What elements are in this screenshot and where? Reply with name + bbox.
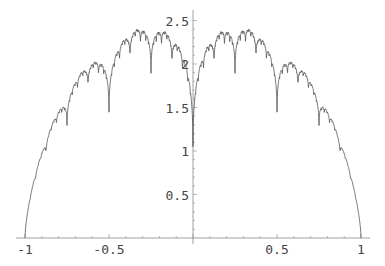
y-tick-label: 1 [181,144,189,159]
x-tick-label: -0.5 [93,242,124,257]
y-tick-label: 0.5 [166,188,189,203]
x-tick-label: 1 [357,242,365,257]
x-tick-label: 0.5 [265,242,288,257]
x-tick-label: -1 [17,242,33,257]
y-tick-label: 2.5 [166,14,189,29]
y-tick-label: 1.5 [166,101,189,116]
chart-plot-area: -1-0.50.510.511.522.5 [0,0,385,266]
